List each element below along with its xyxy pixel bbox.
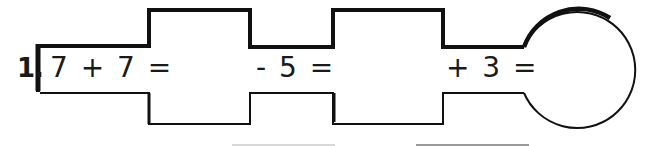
step-1-expression: 7 + 7 = [50, 51, 171, 84]
problem-number: 1. [17, 53, 43, 83]
math-chain-worksheet: 1. 7 + 7 = - 5 = + 3 = [0, 0, 657, 146]
step-2-expression: - 5 = [256, 51, 333, 84]
answer-line-1 [232, 144, 335, 146]
step-3-expression: + 3 = [446, 51, 537, 84]
answer-line-2 [416, 144, 529, 146]
